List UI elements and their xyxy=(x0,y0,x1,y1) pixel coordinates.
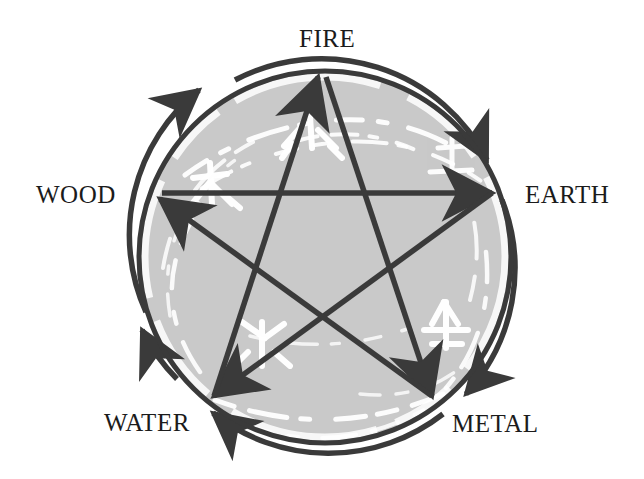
element-label-earth: EARTH xyxy=(525,182,609,207)
wuxing-diagram: FIRE WOOD EARTH WATER METAL xyxy=(0,0,644,479)
element-label-wood: WOOD xyxy=(36,182,116,207)
element-label-water: WATER xyxy=(104,410,190,435)
element-label-fire: FIRE xyxy=(299,26,355,51)
wuxing-canvas xyxy=(0,0,644,479)
element-label-metal: METAL xyxy=(452,411,539,436)
